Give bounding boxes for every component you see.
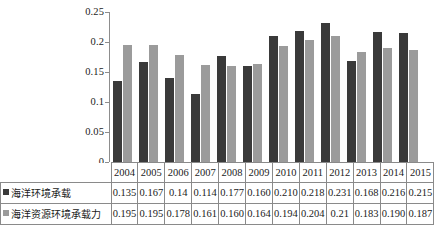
table-corner-cell [1, 163, 112, 183]
y-tick-mark [105, 42, 109, 43]
bar-group [188, 0, 214, 162]
bar-series-secondary [201, 65, 210, 162]
bar-series-primary [269, 36, 278, 162]
table-value-cell: 0.210 [272, 183, 299, 204]
table-value-cell: 0.161 [192, 203, 219, 224]
table-header-year: 2013 [353, 163, 380, 183]
bar-series-secondary [331, 36, 340, 162]
table-value-cell: 0.204 [299, 203, 326, 224]
legend-swatch-icon [3, 210, 9, 216]
table-value-cell: 0.190 [380, 203, 407, 224]
bar-group [266, 0, 292, 162]
bar-series-secondary [409, 50, 418, 162]
table-value-cell: 0.216 [380, 183, 407, 204]
bar-group [317, 0, 343, 162]
bar-group [214, 0, 240, 162]
table-value-cell: 0.194 [272, 203, 299, 224]
table-header-year: 2008 [219, 163, 246, 183]
y-tick-label: 0.05 [60, 127, 104, 137]
y-tick-mark [105, 102, 109, 103]
table-value-cell: 0.160 [219, 203, 246, 224]
table-header-year: 2010 [272, 163, 299, 183]
bar-group [162, 0, 188, 162]
table-value-cell: 0.114 [192, 183, 219, 204]
y-tick-mark [105, 132, 109, 133]
legend-entry: 海洋环境承载 [1, 183, 112, 204]
bar-group [395, 0, 421, 162]
table-header-year: 2005 [138, 163, 165, 183]
table-header-year: 2004 [111, 163, 138, 183]
bar-series-primary [139, 62, 148, 162]
bar-series-primary [399, 33, 408, 162]
table-row: 海洋资源环境承载力0.1950.1950.1780.1610.1600.1640… [1, 203, 434, 224]
bar-series-primary [321, 23, 330, 162]
legend-label: 海洋资源环境承载力 [11, 209, 101, 220]
bar-group [369, 0, 395, 162]
table-header-year: 2006 [165, 163, 192, 183]
bar-group [291, 0, 317, 162]
bar-series-primary [373, 32, 382, 162]
table-value-cell: 0.187 [407, 203, 434, 224]
legend-swatch-icon [3, 189, 9, 195]
table-value-cell: 0.177 [219, 183, 246, 204]
table-header-year: 2009 [246, 163, 273, 183]
y-tick-label: 0.1 [60, 97, 104, 107]
table-header-year: 2012 [326, 163, 353, 183]
bar-series-secondary [175, 55, 184, 162]
y-tick-label: 0.15 [60, 67, 104, 77]
table-value-cell: 0.215 [407, 183, 434, 204]
table-value-cell: 0.167 [138, 183, 165, 204]
bar-group [110, 0, 136, 162]
bar-series-primary [347, 61, 356, 162]
bar-chart-figure: 0.250.20.150.10.050 20042005200620072008… [0, 0, 421, 222]
table-value-cell: 0.160 [246, 183, 273, 204]
table-value-cell: 0.135 [111, 183, 138, 204]
bar-series-secondary [383, 48, 392, 162]
y-tick-label: 0.2 [60, 37, 104, 47]
bar-series-secondary [253, 64, 262, 162]
bar-series-secondary [305, 40, 314, 162]
bar-series-secondary [149, 45, 158, 162]
table-header-year: 2015 [407, 163, 434, 183]
y-tick-label: 0.25 [60, 7, 104, 17]
table-value-cell: 0.195 [111, 203, 138, 224]
bar-series-primary [113, 81, 122, 162]
bar-series-secondary [357, 52, 366, 162]
bars-layer [110, 0, 421, 162]
bar-series-primary [243, 66, 252, 162]
bar-series-primary [165, 78, 174, 162]
data-table-body: 2004200520062007200820092010201120122013… [1, 163, 434, 225]
bar-series-secondary [123, 45, 132, 162]
table-header-year: 2007 [192, 163, 219, 183]
bar-group [136, 0, 162, 162]
bar-series-primary [295, 31, 304, 162]
table-value-cell: 0.14 [165, 183, 192, 204]
table-value-cell: 0.178 [165, 203, 192, 224]
bar-series-secondary [279, 46, 288, 162]
table-value-cell: 0.231 [326, 183, 353, 204]
plot-area: 0.250.20.150.10.050 [0, 0, 421, 166]
table-value-cell: 0.168 [353, 183, 380, 204]
table-row-years: 2004200520062007200820092010201120122013… [1, 163, 434, 183]
table-value-cell: 0.164 [246, 203, 273, 224]
legend-label: 海洋环境承载 [11, 188, 71, 199]
chart-data-table: 2004200520062007200820092010201120122013… [0, 162, 434, 225]
table-value-cell: 0.218 [299, 183, 326, 204]
table-header-year: 2011 [299, 163, 326, 183]
bar-group [343, 0, 369, 162]
table-header-year: 2014 [380, 163, 407, 183]
legend-entry: 海洋资源环境承载力 [1, 203, 112, 224]
table-value-cell: 0.195 [138, 203, 165, 224]
bar-group [240, 0, 266, 162]
y-tick-mark [105, 72, 109, 73]
table-value-cell: 0.21 [326, 203, 353, 224]
table-row: 海洋环境承载0.1350.1670.140.1140.1770.1600.210… [1, 183, 434, 204]
y-tick-mark [105, 12, 109, 13]
bar-series-primary [217, 56, 226, 162]
bar-series-primary [191, 94, 200, 162]
bar-series-secondary [227, 66, 236, 162]
y-axis-tick-labels: 0.250.20.150.10.050 [60, 0, 104, 166]
table-value-cell: 0.183 [353, 203, 380, 224]
